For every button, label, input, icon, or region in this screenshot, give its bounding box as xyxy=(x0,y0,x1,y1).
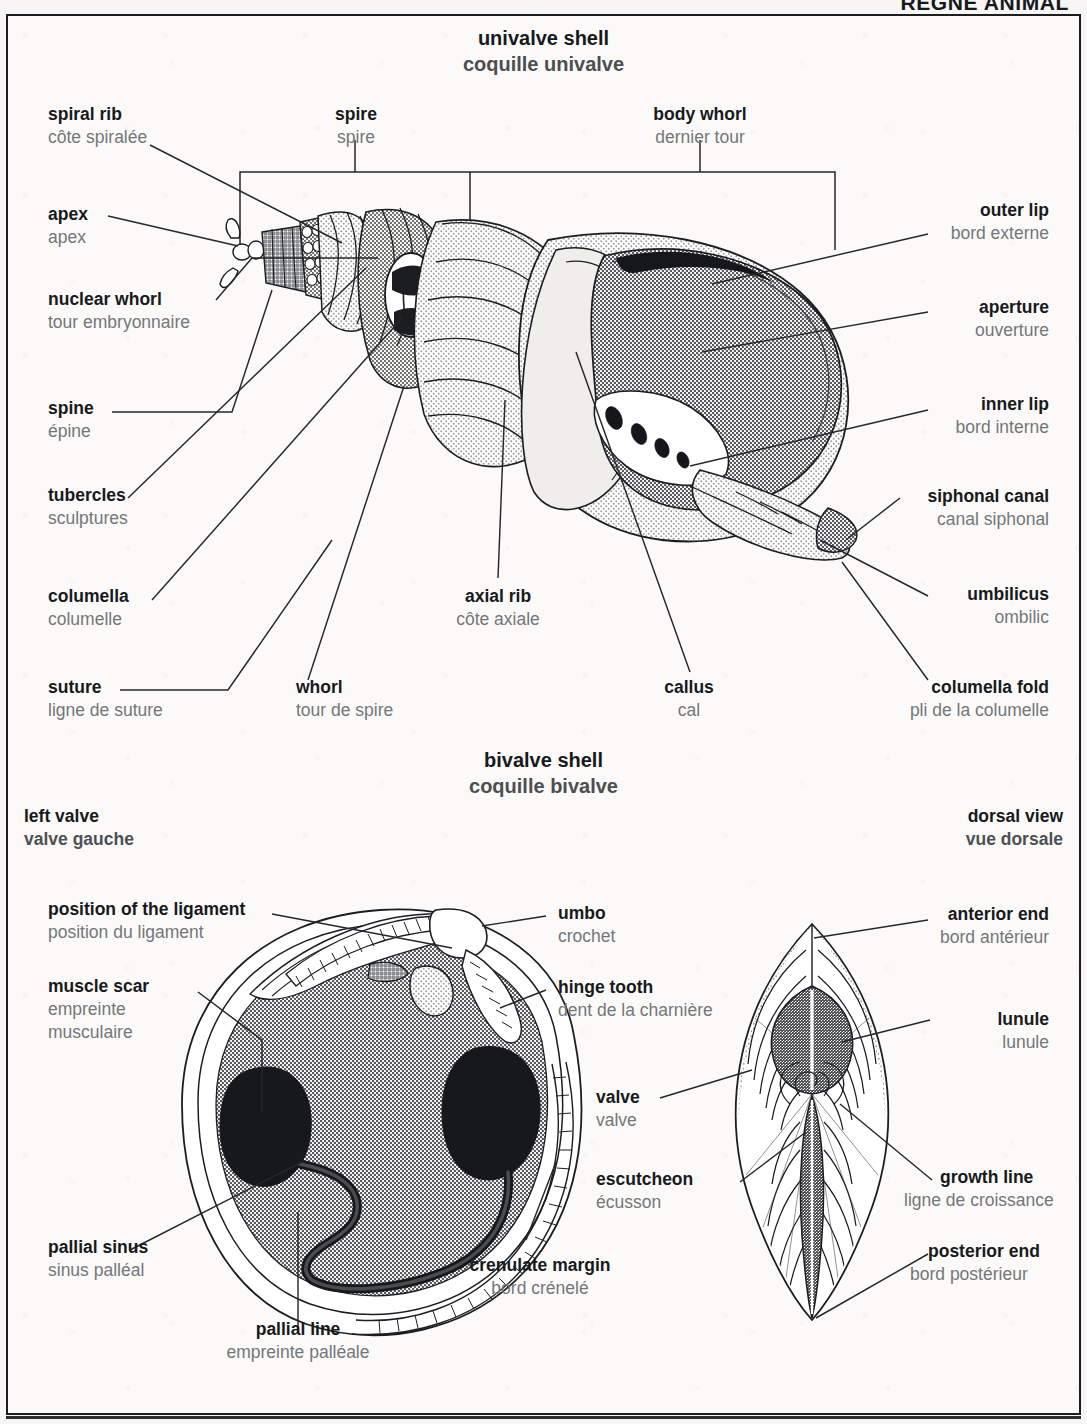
tubercles-en: tubercles xyxy=(48,484,128,507)
left-valve-en: left valve xyxy=(24,805,134,828)
posterior-end-en: posterior end xyxy=(928,1240,1040,1263)
valve-en: valve xyxy=(596,1086,640,1109)
position-of-the-ligament-en: position of the ligament xyxy=(48,898,245,921)
pallial-line-fr: empreinte palléale xyxy=(200,1341,396,1364)
whorl-fr: tour de spire xyxy=(296,699,393,722)
label-lunule: lunule lunule xyxy=(997,1008,1049,1054)
dorsal-view-fr: vue dorsale xyxy=(966,828,1063,851)
bivalve-title-en: bivalve shell xyxy=(0,748,1087,774)
growth-line-fr: ligne de croissance xyxy=(904,1189,1054,1212)
lunule-fr: lunule xyxy=(997,1031,1049,1054)
spire-en: spire xyxy=(310,103,402,126)
label-anterior-end: anterior end bord antérieur xyxy=(940,903,1049,949)
label-umbilicus: umbilicus ombilic xyxy=(967,583,1049,629)
nuclear-whorl-en: nuclear whorl xyxy=(48,288,190,311)
label-valve: valve valve xyxy=(596,1086,640,1132)
spine-en: spine xyxy=(48,397,94,420)
muscle-scar-fr: empreinte musculaire xyxy=(48,998,149,1044)
univalve-title-en: univalve shell xyxy=(0,26,1087,52)
label-position-of-the-ligament: position of the ligament position du lig… xyxy=(48,898,245,944)
columella-fold-fr: pli de la columelle xyxy=(910,699,1049,722)
label-posterior-end: posterior end bord postérieur xyxy=(928,1240,1040,1286)
escutcheon-en: escutcheon xyxy=(596,1168,693,1191)
hinge-tooth-fr: dent de la charnière xyxy=(558,999,713,1022)
spiral-rib-en: spiral rib xyxy=(48,103,147,126)
section-title-univalve: univalve shell coquille univalve xyxy=(0,26,1087,77)
label-spiral-rib: spiral rib côte spiralée xyxy=(48,103,147,149)
whorl-en: whorl xyxy=(296,676,393,699)
label-body-whorl: body whorl dernier tour xyxy=(620,103,780,149)
diagram-page: RÈGNE ANIMAL xyxy=(0,0,1087,1424)
position-of-the-ligament-fr: position du ligament xyxy=(48,921,245,944)
nuclear-whorl-fr: tour embryonnaire xyxy=(48,311,190,334)
label-tubercles: tubercles sculptures xyxy=(48,484,128,530)
muscle-scar-en: muscle scar xyxy=(48,975,149,998)
view-label-left-valve: left valve valve gauche xyxy=(24,805,134,851)
label-pallial-line: pallial line empreinte palléale xyxy=(200,1318,396,1364)
label-spine: spine épine xyxy=(48,397,94,443)
dorsal-view-en: dorsal view xyxy=(966,805,1063,828)
siphonal-canal-fr: canal siphonal xyxy=(927,508,1049,531)
label-spire: spire spire xyxy=(310,103,402,149)
label-growth-line: growth line ligne de croissance xyxy=(940,1166,1054,1212)
columella-en: columella xyxy=(48,585,129,608)
callus-en: callus xyxy=(640,676,738,699)
label-siphonal-canal: siphonal canal canal siphonal xyxy=(927,485,1049,531)
inner-lip-en: inner lip xyxy=(956,393,1049,416)
label-suture: suture ligne de suture xyxy=(48,676,163,722)
hinge-tooth-en: hinge tooth xyxy=(558,976,713,999)
aperture-fr: ouverture xyxy=(975,319,1049,342)
label-aperture: aperture ouverture xyxy=(975,296,1049,342)
label-callus: callus cal xyxy=(640,676,738,722)
label-apex: apex apex xyxy=(48,203,88,249)
columella-fr: columelle xyxy=(48,608,129,631)
inner-lip-fr: bord interne xyxy=(956,416,1049,439)
lunule-en: lunule xyxy=(997,1008,1049,1031)
body-whorl-fr: dernier tour xyxy=(620,126,780,149)
umbo-fr: crochet xyxy=(558,925,615,948)
label-crenulate-margin: crenulate margin bord crénelé xyxy=(440,1254,640,1300)
label-whorl: whorl tour de spire xyxy=(296,676,393,722)
dorsal-view-illustration xyxy=(721,924,902,1320)
spiral-rib-fr: côte spiralée xyxy=(48,126,147,149)
univalve-title-fr: coquille univalve xyxy=(0,52,1087,78)
label-columella-fold: columella fold pli de la columelle xyxy=(910,676,1049,722)
label-columella: columella columelle xyxy=(48,585,129,631)
pallial-sinus-en: pallial sinus xyxy=(48,1236,148,1259)
crenulate-margin-fr: bord crénelé xyxy=(440,1277,640,1300)
label-axial-rib: axial rib côte axiale xyxy=(428,585,568,631)
spire-fr: spire xyxy=(310,126,402,149)
body-whorl-en: body whorl xyxy=(620,103,780,126)
label-escutcheon: escutcheon écusson xyxy=(596,1168,693,1214)
section-title-bivalve: bivalve shell coquille bivalve xyxy=(0,748,1087,799)
axial-rib-en: axial rib xyxy=(428,585,568,608)
pallial-line-en: pallial line xyxy=(200,1318,396,1341)
label-umbo: umbo crochet xyxy=(558,902,615,948)
bivalve-title-fr: coquille bivalve xyxy=(0,774,1087,800)
tubercles-fr: sculptures xyxy=(48,507,128,530)
univalve-shell-illustration xyxy=(220,208,857,560)
label-pallial-sinus: pallial sinus sinus palléal xyxy=(48,1236,148,1282)
pallial-sinus-fr: sinus palléal xyxy=(48,1259,148,1282)
valve-fr: valve xyxy=(596,1109,640,1132)
apex-en: apex xyxy=(48,203,88,226)
suture-fr: ligne de suture xyxy=(48,699,163,722)
label-hinge-tooth: hinge tooth dent de la charnière xyxy=(558,976,713,1022)
label-nuclear-whorl: nuclear whorl tour embryonnaire xyxy=(48,288,190,334)
left-valve-fr: valve gauche xyxy=(24,828,134,851)
apex-fr: apex xyxy=(48,226,88,249)
anterior-end-en: anterior end xyxy=(940,903,1049,926)
columella-fold-en: columella fold xyxy=(910,676,1049,699)
umbo-en: umbo xyxy=(558,902,615,925)
outer-lip-en: outer lip xyxy=(951,199,1049,222)
label-muscle-scar: muscle scar empreinte musculaire xyxy=(48,975,149,1043)
label-outer-lip: outer lip bord externe xyxy=(951,199,1049,245)
callus-fr: cal xyxy=(640,699,738,722)
escutcheon-fr: écusson xyxy=(596,1191,693,1214)
aperture-en: aperture xyxy=(975,296,1049,319)
umbilicus-fr: ombilic xyxy=(967,606,1049,629)
posterior-end-fr: bord postérieur xyxy=(910,1263,1040,1286)
view-label-dorsal-view: dorsal view vue dorsale xyxy=(966,805,1063,851)
spine-fr: épine xyxy=(48,420,94,443)
siphonal-canal-en: siphonal canal xyxy=(927,485,1049,508)
